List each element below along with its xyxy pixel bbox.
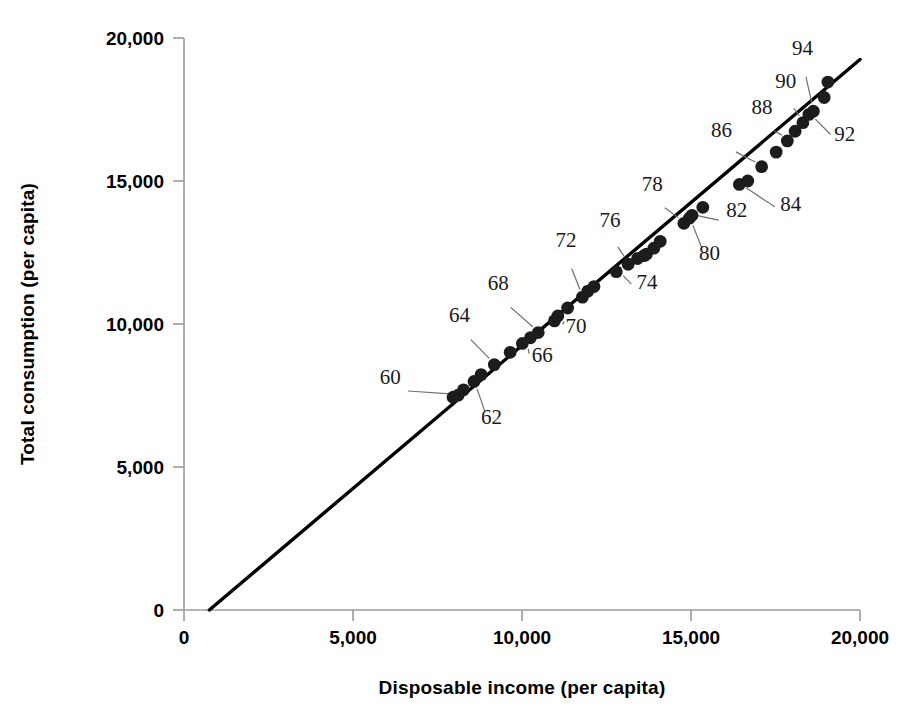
data-point (475, 368, 488, 381)
data-point (504, 346, 517, 359)
data-point (818, 91, 831, 104)
point-year-label: 82 (726, 198, 747, 222)
chart-canvas: 05,00010,00015,00020,00005,00010,00015,0… (0, 0, 921, 718)
data-point (457, 383, 470, 396)
x-tick-label: 0 (179, 627, 190, 648)
y-tick-label: 5,000 (116, 457, 164, 478)
point-year-label: 70 (566, 314, 587, 338)
data-point (488, 358, 501, 371)
data-point (588, 280, 601, 293)
y-tick-label: 0 (153, 600, 164, 621)
data-point (561, 302, 574, 315)
y-tick-label: 20,000 (106, 28, 164, 49)
point-year-label: 80 (699, 241, 720, 265)
point-year-label: 84 (780, 192, 802, 216)
data-point (532, 326, 545, 339)
point-year-label: 64 (449, 303, 471, 327)
y-tick-label: 15,000 (106, 171, 164, 192)
data-point (741, 175, 754, 188)
x-axis-title: Disposable income (per capita) (379, 677, 666, 698)
point-year-label: 94 (792, 36, 814, 60)
x-tick-label: 10,000 (493, 627, 551, 648)
data-point (696, 201, 709, 214)
data-point (610, 265, 623, 278)
annotation-leader-line (528, 349, 529, 354)
point-year-label: 74 (637, 270, 659, 294)
point-year-label: 72 (555, 228, 576, 252)
data-point (686, 209, 699, 222)
point-year-label: 92 (834, 122, 855, 146)
data-point (770, 146, 783, 159)
x-tick-label: 5,000 (329, 627, 377, 648)
y-tick-label: 10,000 (106, 314, 164, 335)
y-axis-title: Total consumption (per capita) (17, 183, 38, 465)
point-year-label: 62 (481, 405, 502, 429)
point-year-label: 86 (711, 118, 732, 142)
x-tick-label: 15,000 (662, 627, 720, 648)
data-point (654, 235, 667, 248)
point-year-label: 66 (532, 343, 553, 367)
point-year-label: 88 (751, 95, 772, 119)
data-point (807, 105, 820, 118)
scatter-plot-figure: 05,00010,00015,00020,00005,00010,00015,0… (0, 0, 921, 718)
point-year-label: 68 (488, 271, 509, 295)
point-year-label: 76 (599, 208, 620, 232)
point-year-label: 78 (642, 172, 663, 196)
data-point (821, 76, 834, 89)
point-year-label: 90 (775, 69, 796, 93)
point-year-label: 60 (380, 365, 401, 389)
data-point (755, 160, 768, 173)
x-tick-label: 20,000 (831, 627, 889, 648)
